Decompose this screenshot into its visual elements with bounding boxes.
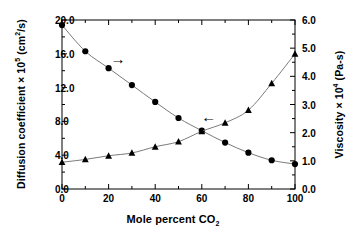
y-axis-right-tick-label: 4.0: [302, 71, 316, 82]
x-axis-tick-label: 80: [243, 193, 254, 204]
chart-figure: →← Diffusion coefficient × 105 (cm2/s) V…: [0, 0, 346, 237]
data-point-circle: [269, 157, 275, 163]
y-axis-right-tick-label: 1.0: [302, 155, 316, 166]
y-axis-right-tick-label: 6.0: [302, 15, 316, 26]
data-point-circle: [222, 139, 228, 145]
arrow-to-left-axis: →: [110, 50, 125, 67]
data-point-circle: [82, 48, 88, 54]
x-axis-tick-label: 40: [150, 193, 161, 204]
data-point-triangle: [292, 50, 299, 56]
data-point-circle: [152, 99, 158, 105]
data-point-circle: [292, 161, 298, 167]
x-axis-tick-label: 100: [287, 193, 304, 204]
series-line-1: [62, 54, 295, 162]
plot-frame: [62, 20, 295, 189]
y-axis-right-tick-label: 0.0: [302, 184, 316, 195]
y-axis-right-title: Viscosity × 104 (Pa-s): [332, 20, 345, 189]
x-axis-tick-label: 20: [103, 193, 114, 204]
y-axis-right-tick-label: 5.0: [302, 43, 316, 54]
y-axis-left-title: Diffusion coefficient × 105 (cm2/s): [14, 20, 27, 189]
arrow-to-right-axis: ←: [201, 108, 216, 125]
data-point-circle: [129, 82, 135, 88]
x-axis-tick-label: 0: [59, 193, 65, 204]
x-axis-title: Mole percent CO2: [0, 213, 346, 227]
y-axis-right-tick-label: 2.0: [302, 127, 316, 138]
x-axis-tick-label: 60: [196, 193, 207, 204]
data-point-triangle: [222, 119, 229, 125]
y-axis-right-tick-label: 3.0: [302, 99, 316, 110]
data-point-circle: [245, 150, 251, 156]
data-point-circle: [175, 115, 181, 121]
